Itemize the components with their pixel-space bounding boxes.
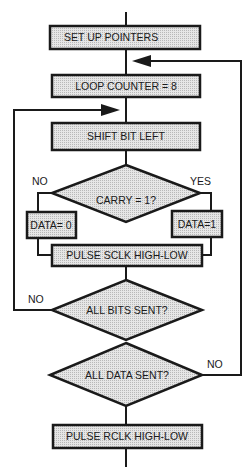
all-data-decision: ALL DATA SENT? bbox=[50, 343, 202, 406]
pulse-sclk-box: PULSE SCLK HIGH-LOW bbox=[52, 245, 202, 266]
pulse-rclk-box: PULSE RCLK HIGH-LOW bbox=[53, 425, 202, 448]
shift-bit-label: SHIFT BIT LEFT bbox=[87, 130, 165, 142]
carry-yes-label: YES bbox=[190, 175, 211, 187]
all-data-label: ALL DATA SENT? bbox=[85, 369, 169, 381]
data0-connector bbox=[38, 238, 52, 255]
all-bits-label: ALL BITS SENT? bbox=[86, 304, 167, 316]
arrow-right-icon bbox=[101, 104, 120, 116]
carry-yes-connector bbox=[200, 193, 211, 211]
setup-label: SET UP POINTERS bbox=[64, 31, 158, 43]
arrow-left-icon bbox=[132, 55, 151, 67]
pulse-sclk-label: PULSE SCLK HIGH-LOW bbox=[66, 249, 187, 261]
loop-counter-box: LOOP COUNTER = 8 bbox=[52, 75, 200, 97]
data0-label: DATA= 0 bbox=[30, 219, 71, 231]
data1-box: DATA=1 bbox=[172, 211, 222, 237]
all-data-no-label: NO bbox=[207, 358, 223, 370]
all-bits-decision: ALL BITS SENT? bbox=[52, 280, 202, 340]
data1-label: DATA=1 bbox=[178, 218, 217, 230]
pulse-rclk-label: PULSE RCLK HIGH-LOW bbox=[66, 430, 188, 442]
all-bits-no-label: NO bbox=[28, 293, 44, 305]
carry-no-connector bbox=[38, 193, 52, 212]
shift-bit-box: SHIFT BIT LEFT bbox=[52, 123, 200, 150]
carry-no-label: NO bbox=[32, 175, 48, 187]
data1-connector bbox=[202, 237, 211, 255]
setup-box: SET UP POINTERS bbox=[50, 26, 200, 49]
loop-counter-label: LOOP COUNTER = 8 bbox=[75, 80, 177, 92]
data0-box: DATA= 0 bbox=[27, 212, 76, 238]
flowchart: SET UP POINTERS LOOP COUNTER = 8 SHIFT B… bbox=[0, 0, 250, 467]
carry-label: CARRY = 1? bbox=[96, 194, 156, 206]
